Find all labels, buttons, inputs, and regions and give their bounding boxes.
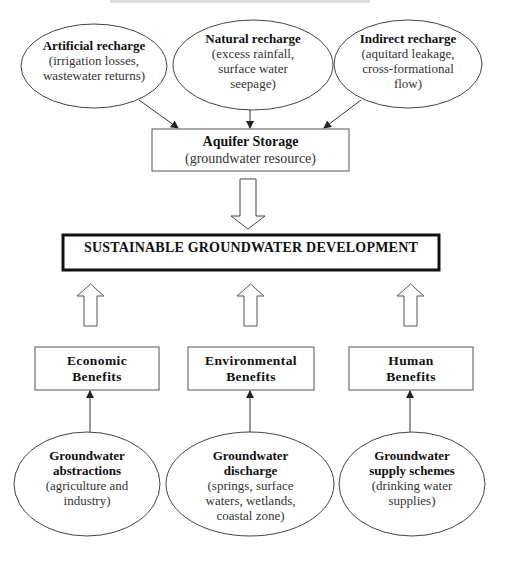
sustainable-development-node: SUSTAINABLE GROUNDWATER DEVELOPMENT <box>63 235 439 255</box>
environmental-benefits-line-2: Benefits <box>226 369 276 385</box>
hollow-down-arrow <box>231 179 265 229</box>
environmental-benefits-node: Environmental Benefits <box>188 347 314 390</box>
natural-recharge-desc-line-1: (excess rainfall, <box>212 46 294 61</box>
natural-recharge-desc-line-2: surface water <box>218 61 288 76</box>
natural-recharge-desc-line-3: seepage) <box>230 76 275 91</box>
arrow-artificial-to-aquifer <box>139 100 178 128</box>
economic-benefits-node: Economic Benefits <box>35 347 159 390</box>
economic-benefits-line-2: Benefits <box>72 369 122 385</box>
indirect-recharge-desc-line-2: cross-formational <box>362 61 454 76</box>
abstractions-title-line-1: Groundwater <box>49 448 125 463</box>
abstractions-title-line-2: abstractions <box>53 463 121 478</box>
aquifer-storage-title: Aquifer Storage <box>203 133 299 150</box>
economic-benefits-line-1: Economic <box>67 353 127 369</box>
supply-schemes-node: Groundwater supply schemes (drinking wat… <box>339 448 485 510</box>
natural-recharge-title: Natural recharge <box>205 31 300 46</box>
supply-schemes-title-line-1: Groundwater <box>374 448 450 463</box>
discharge-node: Groundwater discharge (springs, surface … <box>166 448 335 524</box>
artificial-recharge-desc-line-2: wastewater returns) <box>43 68 145 83</box>
hollow-up-arrow-environmental <box>237 284 264 326</box>
hollow-up-arrow-economic <box>77 284 104 326</box>
human-benefits-line-1: Human <box>388 353 434 369</box>
abstractions-desc-line-2: industry) <box>64 493 111 508</box>
indirect-recharge-desc-line-3: flow) <box>394 76 422 91</box>
supply-schemes-title-line-2: supply schemes <box>369 463 455 478</box>
supply-schemes-desc-line-1: (drinking water <box>372 478 453 493</box>
abstractions-desc-line-1: (agriculture and <box>46 478 129 493</box>
sustainable-development-title: SUSTAINABLE GROUNDWATER DEVELOPMENT <box>84 240 418 255</box>
discharge-title-line-1: Groundwater <box>213 448 289 463</box>
natural-recharge-node: Natural recharge (excess rainfall, surfa… <box>175 28 331 94</box>
human-benefits-line-2: Benefits <box>386 369 436 385</box>
human-benefits-node: Human Benefits <box>349 347 473 390</box>
artificial-recharge-desc-line-1: (irrigation losses, <box>49 53 139 68</box>
discharge-desc-line-3: coastal zone) <box>216 508 284 523</box>
discharge-desc-line-2: waters, wetlands, <box>206 493 296 508</box>
artificial-recharge-title: Artificial recharge <box>43 38 146 53</box>
discharge-desc-line-1: (springs, surface <box>208 478 294 493</box>
indirect-recharge-title: Indirect recharge <box>360 31 457 46</box>
hollow-up-arrow-human <box>397 284 424 326</box>
discharge-title-line-2: discharge <box>224 463 277 478</box>
indirect-recharge-node: Indirect recharge (aquitard leakage, cro… <box>335 28 481 94</box>
artificial-recharge-node: Artificial recharge (irrigation losses, … <box>21 30 167 90</box>
supply-schemes-desc-line-2: supplies) <box>389 493 436 508</box>
abstractions-node: Groundwater abstractions (agriculture an… <box>14 448 160 510</box>
aquifer-storage-subtitle: (groundwater resource) <box>185 150 316 167</box>
arrow-indirect-to-aquifer <box>324 100 361 128</box>
indirect-recharge-desc-line-1: (aquitard leakage, <box>361 46 454 61</box>
aquifer-storage-node: Aquifer Storage (groundwater resource) <box>152 129 349 171</box>
environmental-benefits-line-1: Environmental <box>205 353 297 369</box>
